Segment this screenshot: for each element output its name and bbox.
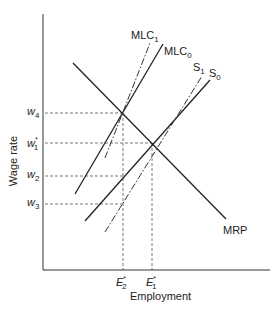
mlc0-curve	[75, 44, 163, 194]
w4-tick-label: w4	[27, 106, 39, 120]
mlc1-curve	[105, 43, 150, 158]
labour-market-diagram	[0, 0, 275, 314]
mlc0-label: MLC0	[164, 46, 192, 60]
w2-tick-label: w2	[27, 169, 39, 183]
e2-tick-label: E*2	[116, 275, 127, 291]
x-axis-title: Employment	[130, 290, 191, 302]
mrp-curve	[73, 63, 226, 219]
mrp-label: MRP	[223, 225, 247, 236]
w1-tick-label: w*1	[27, 136, 38, 152]
s0-curve	[85, 80, 210, 221]
y-axis-title: Wage rate	[7, 136, 19, 186]
s0-label: S0	[209, 68, 221, 82]
s1-curve	[105, 76, 202, 232]
mlc1-label: MLC1	[131, 30, 159, 44]
w3-tick-label: w3	[27, 197, 39, 211]
e1-tick-label: E*1	[146, 275, 157, 291]
s1-label: S1	[193, 62, 205, 76]
